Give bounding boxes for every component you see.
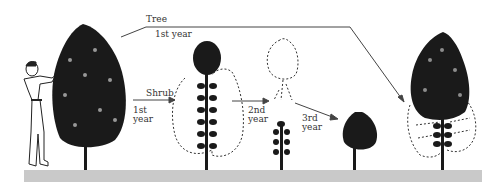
label-year3: 3rd year [302,114,324,132]
young-tree [52,24,126,170]
label-shrub-year1: 1st year [133,106,155,124]
person-figure [24,62,56,167]
label-year2: 2nd year [248,106,270,124]
label-tree: Tree [146,15,167,24]
year3-shrub [343,112,377,170]
year2-stem [273,121,290,170]
pruning-diagram: Tree 1st year Shrub 1st year 2nd year 3r… [0,0,504,186]
year2-outline [267,39,298,100]
label-tree-year: 1st year [155,30,192,39]
final-tree [411,32,470,170]
illustration-svg [0,0,504,186]
year2-arrow [232,98,269,104]
label-shrub: Shrub [146,89,174,98]
shrub-year1-tree [193,41,221,170]
